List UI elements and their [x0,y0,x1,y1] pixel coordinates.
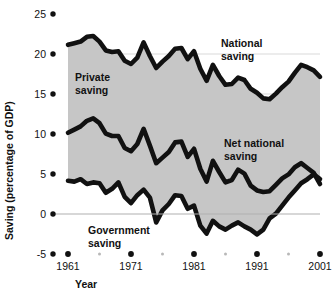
annotation-net-national-saving-line1: Net national [224,137,284,149]
x-tick-label-1971: 1971 [119,260,143,272]
y-tick-markers [50,11,55,256]
x-tick-label-1961: 1961 [56,260,80,272]
annotation-net-national-saving-line2: saving [224,150,257,162]
y-tick-label-0: 0 [40,208,46,220]
annotation-government-saving-line1: Government [88,224,150,236]
annotation-national-saving-line2: saving [221,50,254,62]
x-tick-markers-major [65,251,323,257]
annotation-private-saving-line2: saving [75,84,108,96]
x-tick-label-2001: 2001 [308,260,332,272]
y-tick-label-25: 25 [34,8,46,20]
annotation-government-saving: Government saving [88,224,150,249]
y-tick-label-5: 5 [40,168,46,180]
saving-line-chart: 25 20 15 10 5 0 -5 1961 1971 1981 1991 2… [0,0,334,303]
annotation-national-saving-line1: National [221,37,263,49]
y-tick-label-neg5: -5 [37,248,46,260]
x-tick-label-1981: 1981 [182,260,206,272]
y-tick-label-20: 20 [34,48,46,60]
y-tick-label-15: 15 [34,88,46,100]
annotation-private-saving: Private saving [75,71,110,96]
y-tick-label-10: 10 [34,128,46,140]
y-axis-title: Saving (percentage of GDP) [3,101,15,240]
annotation-government-saving-line2: saving [88,237,121,249]
annotation-national-saving: National saving [221,37,263,62]
x-axis-title: Year [75,278,97,290]
annotation-private-saving-line1: Private [75,71,110,83]
chart-figure: 25 20 15 10 5 0 -5 1961 1971 1981 1991 2… [0,0,334,303]
x-tick-label-1991: 1991 [245,260,269,272]
